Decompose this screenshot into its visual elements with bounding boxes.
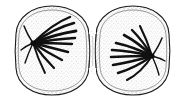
cell-division-figure: Cytokinesis — two daughter cells separat…	[0, 0, 185, 104]
left-spindle-pole	[30, 40, 35, 45]
right-spindle-pole	[149, 53, 154, 58]
cell-division-illustration	[0, 0, 185, 104]
cleavage-furrow	[89, 30, 96, 74]
